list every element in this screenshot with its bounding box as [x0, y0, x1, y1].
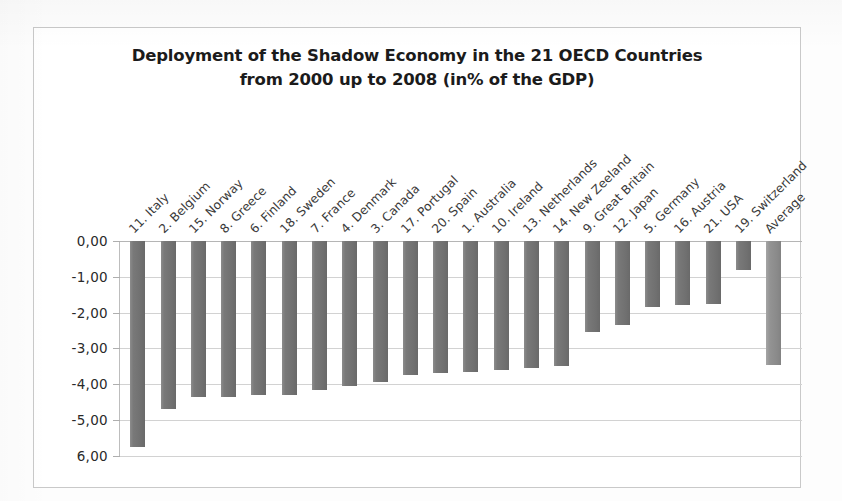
bar: [766, 241, 781, 365]
axis-tick: [113, 384, 120, 385]
value-axis-tick-label: -5,00: [52, 412, 108, 428]
bar: [282, 241, 297, 395]
bar: [403, 241, 418, 375]
chart-title: Deployment of the Shadow Economy in the …: [34, 44, 800, 92]
bar: [433, 241, 448, 373]
bar: [130, 241, 145, 447]
bar: [342, 241, 357, 386]
scanned-page: Deployment of the Shadow Economy in the …: [0, 0, 842, 501]
value-axis-tick-label: -3,00: [52, 340, 108, 356]
bar: [191, 241, 206, 397]
bar: [585, 241, 600, 332]
bar: [615, 241, 630, 325]
gridline: [119, 420, 802, 421]
bar: [463, 241, 478, 372]
value-axis-tick-label: -1,00: [52, 269, 108, 285]
chart-title-line-2: from 2000 up to 2008 (in% of the GDP): [34, 68, 800, 92]
bar: [736, 241, 751, 270]
bar: [251, 241, 266, 395]
bar: [554, 241, 569, 366]
value-axis-tick-label: -4,00: [52, 376, 108, 392]
value-axis-tick-labels: 0,00-1,00-2,00-3,00-4,00-5,006,00: [48, 28, 108, 487]
axis-tick: [113, 313, 120, 314]
bar: [524, 241, 539, 368]
value-axis-tick-label: 0,00: [52, 233, 108, 249]
bar: [494, 241, 509, 370]
gridline: [119, 456, 802, 457]
chart-frame: Deployment of the Shadow Economy in the …: [33, 27, 801, 488]
axis-tick: [113, 277, 120, 278]
axis-tick: [113, 348, 120, 349]
bar: [312, 241, 327, 390]
axis-tick: [113, 456, 120, 457]
value-axis-tick-label: -2,00: [52, 305, 108, 321]
bar: [221, 241, 236, 397]
bar: [675, 241, 690, 305]
chart-title-line-1: Deployment of the Shadow Economy in the …: [132, 46, 703, 65]
bar: [706, 241, 721, 304]
bar: [161, 241, 176, 409]
bar: [373, 241, 388, 382]
axis-tick: [113, 420, 120, 421]
axis-tick: [113, 241, 120, 242]
bar: [645, 241, 660, 307]
value-axis-tick-label: 6,00: [52, 448, 108, 464]
